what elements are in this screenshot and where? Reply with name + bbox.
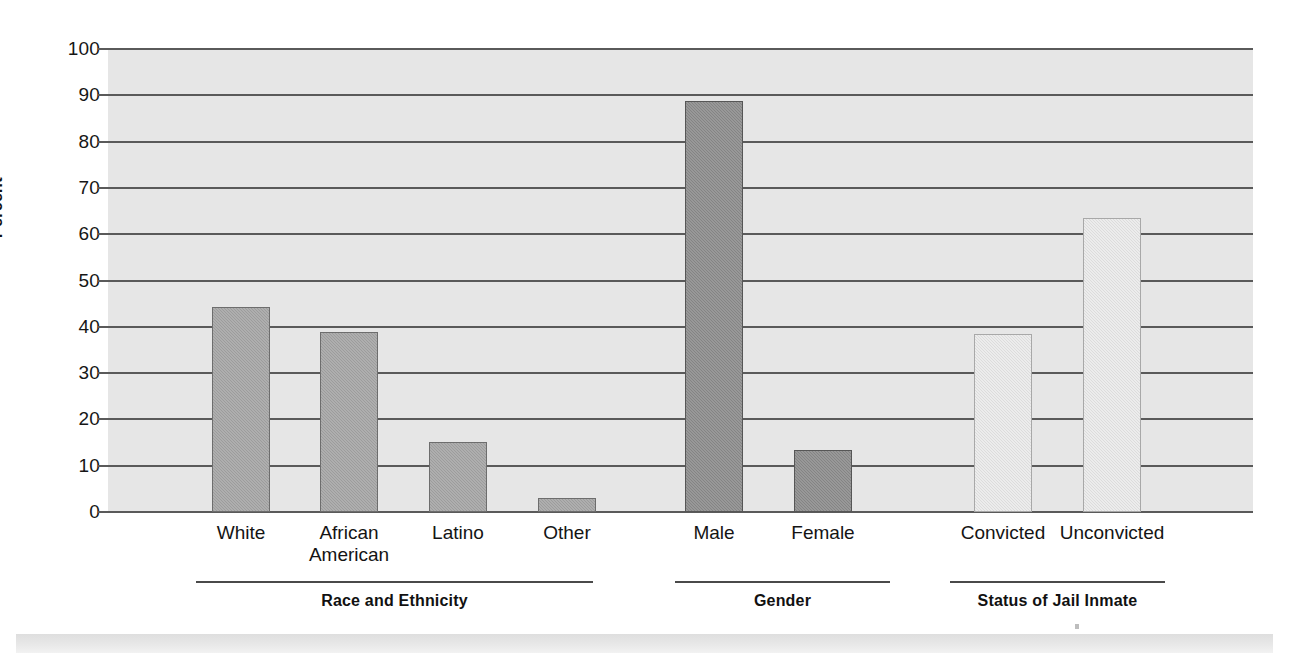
gridline-10 [98, 465, 1253, 467]
x-tick-label-other: Other [492, 522, 642, 544]
gridline-60 [98, 233, 1253, 235]
group-heading-status-of-jail-inmate: Status of Jail Inmate [890, 592, 1225, 610]
bar-other [538, 498, 596, 512]
y-tick-label-0: 0 [40, 502, 100, 521]
y-tick-label-50: 50 [40, 271, 100, 290]
gridline-50 [98, 280, 1253, 282]
bar-unconvicted [1083, 218, 1141, 512]
gridline-30 [98, 372, 1253, 374]
bar-convicted [974, 334, 1032, 512]
y-tick-label-60: 60 [40, 224, 100, 243]
gridline-90 [98, 94, 1253, 96]
gridline-100 [98, 48, 1253, 50]
bar-white [212, 307, 270, 512]
group-rule-0 [196, 581, 593, 583]
y-tick-label-100: 100 [40, 39, 100, 58]
y-tick-label-70: 70 [40, 178, 100, 197]
group-rule-1 [675, 581, 890, 583]
y-tick-label-20: 20 [40, 409, 100, 428]
y-tick-label-30: 30 [40, 363, 100, 382]
y-axis-title: Percent [0, 177, 6, 238]
bar-latino [429, 442, 487, 512]
bar-male [685, 101, 743, 512]
gridline-80 [98, 141, 1253, 143]
group-rule-2 [950, 581, 1165, 583]
x-tick-label-female: Female [748, 522, 898, 544]
group-heading-race-and-ethnicity: Race and Ethnicity [136, 592, 653, 610]
gridline-70 [98, 187, 1253, 189]
scan-speck [1075, 624, 1079, 629]
y-tick-label-80: 80 [40, 132, 100, 151]
bar-african-american [320, 332, 378, 512]
y-tick-label-10: 10 [40, 456, 100, 475]
bar-chart: Percent 1009080706050403020100 WhiteAfri… [0, 0, 1289, 653]
y-tick-label-90: 90 [40, 85, 100, 104]
gridline-20 [98, 418, 1253, 420]
x-tick-label-unconvicted: Unconvicted [1037, 522, 1187, 544]
plot-area [108, 49, 1253, 512]
gridline-0 [98, 511, 1253, 513]
bar-female [794, 450, 852, 512]
gridline-40 [98, 326, 1253, 328]
y-tick-label-40: 40 [40, 317, 100, 336]
scan-edge-band [16, 634, 1273, 653]
